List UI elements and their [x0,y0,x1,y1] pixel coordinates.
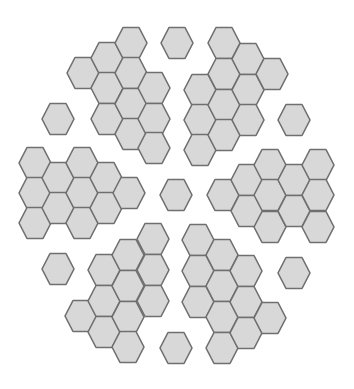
hexagon [113,178,145,209]
lower-left-single [42,254,74,285]
hexagon [137,255,169,286]
hexagon [138,104,170,135]
hexagon [42,104,74,135]
bottom-right-cluster [182,225,286,364]
hexagon [112,332,144,363]
hexagon [138,133,170,164]
hexagon [302,180,334,211]
hexagon [232,105,264,136]
hexagon [254,303,286,334]
bottom-left-cluster [65,224,169,363]
hexagon [137,224,169,255]
right-cluster [207,150,334,243]
hexagon [161,28,193,59]
bottom-center-single [160,333,192,364]
hexagon [160,333,192,364]
top-left-cluster [67,28,170,164]
lower-right-single [278,258,310,289]
hexagon-diagram [0,0,354,389]
hexagon [278,105,310,136]
top-right-cluster [184,28,288,166]
hexagon [115,28,147,59]
hexagon [302,212,334,243]
hexagon [160,180,192,211]
top-center-single [161,28,193,59]
left-cluster [19,148,145,239]
hexagon [138,73,170,104]
hexagon [302,150,334,181]
center-single [160,180,192,211]
hexagon [278,258,310,289]
hexagon [137,286,169,317]
upper-right-single [278,105,310,136]
hexagon [42,254,74,285]
upper-left-single [42,104,74,135]
hexagon [230,256,262,287]
hexagon [256,59,288,90]
